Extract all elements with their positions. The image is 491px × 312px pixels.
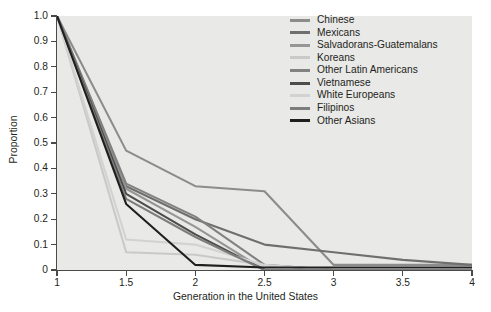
y-axis-tick-label: 0.3 (34, 189, 48, 199)
legend-item[interactable]: Chinese (290, 14, 438, 27)
x-axis-tick (56, 271, 57, 276)
legend-item[interactable]: White Europeans (290, 89, 438, 102)
y-axis-tick (51, 193, 56, 194)
legend-item[interactable]: Vietnamese (290, 77, 438, 90)
legend-item-label: Filipinos (317, 103, 354, 113)
x-axis-tick-label: 1 (37, 278, 77, 288)
legend-item[interactable]: Mexicans (290, 27, 438, 40)
x-axis-tick (195, 271, 196, 276)
x-axis-tick-label: 1.5 (106, 278, 146, 288)
legend-color-swatch (290, 56, 310, 59)
y-axis-tick (51, 15, 56, 16)
legend-color-swatch (290, 44, 310, 47)
x-axis-tick (264, 271, 265, 276)
legend-item-label: Vietnamese (317, 78, 371, 88)
legend-item[interactable]: Filipinos (290, 102, 438, 115)
legend-item-label: Other Asians (317, 116, 375, 126)
y-axis-tick (51, 142, 56, 143)
y-axis-tick (51, 92, 56, 93)
legend-color-swatch (290, 19, 310, 22)
x-axis-tick-label: 3 (314, 278, 354, 288)
y-axis-tick (51, 168, 56, 169)
legend-item[interactable]: Koreans (290, 52, 438, 65)
y-axis-tick-label: 0.5 (34, 138, 48, 148)
y-axis-tick-label: 0.1 (34, 240, 48, 250)
legend-item-label: Chinese (317, 15, 354, 25)
x-axis-tick (471, 271, 472, 276)
legend-item-label: Mexicans (317, 28, 360, 38)
y-axis-tick-label: 0.9 (34, 36, 48, 46)
y-axis-tick (51, 66, 56, 67)
figure-caption (0, 305, 491, 312)
y-axis-tick-label: 0.7 (34, 87, 48, 97)
y-axis-tick (51, 219, 56, 220)
x-axis-tick-label: 2 (175, 278, 215, 288)
y-axis-tick-label: 0.6 (34, 113, 48, 123)
legend-color-swatch (290, 119, 310, 122)
x-axis-title: Generation in the United States (0, 291, 491, 302)
legend-item-label: Koreans (317, 53, 355, 63)
x-axis-tick (333, 271, 334, 276)
y-axis-tick-label: 0.8 (34, 62, 48, 72)
legend-item[interactable]: Salvadorans-Guatemalans (290, 39, 438, 52)
x-axis-tick-label: 4 (452, 278, 491, 288)
y-axis-tick (51, 117, 56, 118)
y-axis-title: Proportion (8, 104, 19, 176)
y-axis-line (56, 15, 57, 271)
x-axis-tick-label: 2.5 (245, 278, 285, 288)
x-axis-tick (126, 271, 127, 276)
x-axis-tick-label: 3.5 (383, 278, 423, 288)
legend-item[interactable]: Other Asians (290, 114, 438, 127)
legend-color-swatch (290, 31, 310, 34)
legend-item-label: Other Latin Americans (317, 65, 418, 75)
y-axis-tick-label: 1.0 (34, 11, 48, 21)
legend-item-label: Salvadorans-Guatemalans (317, 40, 438, 50)
chart-legend: ChineseMexicansSalvadorans-GuatemalansKo… (290, 14, 438, 127)
legend-item-label: White Europeans (317, 90, 395, 100)
y-axis-tick (51, 244, 56, 245)
figure-container: Proportion 00.10.20.30.40.50.60.70.80.91… (0, 0, 491, 312)
legend-item[interactable]: Other Latin Americans (290, 64, 438, 77)
x-axis-tick (402, 271, 403, 276)
y-axis-tick-label: 0.4 (34, 163, 48, 173)
y-axis: Proportion 00.10.20.30.40.50.60.70.80.91… (0, 0, 56, 312)
legend-color-swatch (290, 69, 310, 72)
legend-color-swatch (290, 107, 310, 110)
y-axis-tick (51, 41, 56, 42)
legend-color-swatch (290, 94, 310, 97)
legend-color-swatch (290, 82, 310, 85)
y-axis-tick-label: 0.2 (34, 214, 48, 224)
